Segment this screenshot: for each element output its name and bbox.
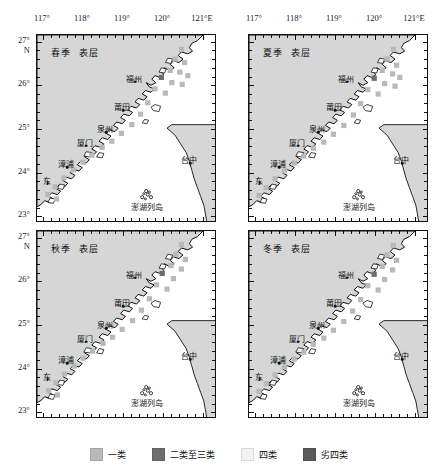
- y-tick-left: [249, 85, 254, 86]
- station-marker: [264, 185, 269, 190]
- x-tick-top: [343, 35, 344, 38]
- panel-layer-label: 表层: [79, 244, 98, 254]
- station-marker: [390, 267, 395, 272]
- x-tick-top: [255, 35, 256, 40]
- x-tick-bottom: [271, 218, 272, 221]
- y-tick-right: [424, 377, 427, 378]
- station-marker: [171, 276, 176, 281]
- station-marker: [376, 287, 381, 292]
- y-tick-left: [37, 77, 40, 78]
- y-tick-left: [37, 325, 42, 326]
- y-tick-right: [424, 190, 427, 191]
- station-marker: [256, 389, 261, 394]
- legend-item-worse-than-IV: 劣四类: [303, 448, 348, 461]
- y-tick-left: [37, 395, 40, 396]
- y-tick-right: [212, 199, 215, 200]
- x-tick-top: [375, 231, 376, 236]
- x-tick-top: [311, 231, 312, 234]
- station-marker: [139, 308, 144, 313]
- y-tick-right: [211, 85, 216, 86]
- city-dot-0: [134, 276, 137, 279]
- x-tick-bottom: [131, 218, 132, 221]
- station-marker: [55, 392, 60, 397]
- station-marker: [365, 283, 370, 288]
- y-tick-left: [249, 395, 252, 396]
- x-tick-top: [295, 231, 296, 236]
- map-panel-spring-surface: 春季 表层福州莆田泉州厦门漳浦东台中澎湖列岛: [36, 34, 216, 222]
- panel-layer-label: 表层: [291, 244, 310, 254]
- y-tick-left: [37, 404, 40, 405]
- station-marker: [120, 327, 125, 332]
- x-tick-label: 120°: [154, 14, 170, 23]
- x-tick-top: [67, 35, 68, 38]
- station-marker: [179, 266, 184, 271]
- y-tick-left: [249, 216, 254, 217]
- y-tick-right: [212, 360, 215, 361]
- y-tick-right: [212, 190, 215, 191]
- city-dot-5: [259, 182, 262, 185]
- x-tick-top: [163, 35, 164, 40]
- legend-label: 劣四类: [321, 448, 348, 461]
- y-tick-right: [424, 59, 427, 60]
- city-label-7: 澎湖列岛: [343, 397, 375, 408]
- y-tick-left: [249, 59, 252, 60]
- city-dot-6: [401, 358, 404, 361]
- x-tick-top: [91, 231, 92, 234]
- y-tick-right: [212, 404, 215, 405]
- city-dot-6: [189, 358, 192, 361]
- station-marker: [292, 357, 297, 362]
- x-tick-bottom: [131, 414, 132, 417]
- x-tick-bottom: [351, 218, 352, 221]
- y-tick-left: [249, 377, 252, 378]
- x-tick-bottom: [359, 218, 360, 221]
- y-tick-left: [37, 190, 40, 191]
- legend-label: 四类: [259, 448, 277, 461]
- x-tick-bottom: [391, 414, 392, 417]
- y-axis-unit-n: N: [4, 46, 30, 56]
- x-tick-bottom: [195, 414, 196, 417]
- y-tick-right: [212, 68, 215, 69]
- station-marker: [301, 350, 306, 355]
- y-tick-left: [37, 103, 40, 104]
- x-tick-label: 118°: [286, 14, 302, 23]
- x-tick-top: [359, 231, 360, 234]
- y-tick-right: [212, 255, 215, 256]
- city-label-5: 东: [255, 371, 263, 382]
- y-tick-right: [424, 264, 427, 265]
- x-tick-bottom: [91, 218, 92, 221]
- y-tick-right: [424, 103, 427, 104]
- x-tick-top: [67, 231, 68, 234]
- y-tick-left: [249, 181, 252, 182]
- panel-caption: 春季 表层: [51, 46, 98, 59]
- y-tick-right: [423, 173, 428, 174]
- station-marker: [147, 296, 152, 301]
- x-tick-top: [279, 231, 280, 234]
- x-tick-bottom: [123, 217, 124, 222]
- x-tick-bottom: [75, 414, 76, 417]
- y-tick-left: [249, 129, 254, 130]
- x-tick-bottom: [319, 218, 320, 221]
- x-tick-top: [391, 231, 392, 234]
- x-tick-bottom: [399, 414, 400, 417]
- station-marker: [358, 297, 363, 302]
- y-tick-left: [249, 50, 252, 51]
- station-marker: [180, 82, 185, 87]
- y-tick-right: [424, 334, 427, 335]
- y-tick-left: [37, 112, 40, 113]
- y-tick-left: [249, 308, 252, 309]
- x-tick-bottom: [327, 218, 328, 221]
- city-dot-5: [47, 182, 50, 185]
- y-tick-left: [249, 334, 252, 335]
- x-tick-top: [343, 231, 344, 234]
- station-marker: [397, 75, 402, 80]
- station-marker: [179, 47, 184, 52]
- y-tick-left: [37, 173, 42, 174]
- panel-caption: 秋季 表层: [51, 242, 98, 255]
- station-marker: [331, 328, 336, 333]
- caption-spacer: [70, 244, 79, 254]
- x-tick-bottom: [311, 218, 312, 221]
- city-dot-2: [105, 327, 108, 330]
- y-tick-right: [212, 316, 215, 317]
- y-tick-right: [212, 386, 215, 387]
- y-tick-right: [212, 112, 215, 113]
